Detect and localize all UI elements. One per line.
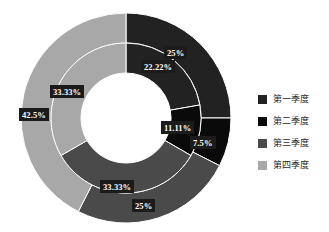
chart-legend: 第一季度 第二季度 第三季度 第四季度 [258, 88, 326, 176]
data-label-inner-q1: 22.22% [141, 60, 175, 73]
legend-swatch-icon-q1 [258, 95, 267, 104]
legend-item-q4[interactable]: 第四季度 [258, 154, 326, 176]
legend-item-q1[interactable]: 第一季度 [258, 88, 326, 110]
data-label-outer-q4: 42.5% [19, 108, 49, 121]
chart-title-remnant [6, 0, 126, 5]
chart-container: 25% 22.22% 11.11% 7.5% 33.33% 25% 33.33%… [0, 0, 329, 232]
data-label-outer-q2: 7.5% [190, 136, 216, 149]
data-label-outer-q3: 25% [132, 199, 155, 212]
legend-item-q2[interactable]: 第二季度 [258, 110, 326, 132]
legend-label-q3: 第三季度 [273, 138, 309, 148]
data-label-inner-q4: 33.33% [50, 85, 84, 98]
legend-swatch-icon-q3 [258, 139, 267, 148]
data-label-outer-q1: 25% [164, 46, 187, 59]
data-label-inner-q3: 33.33% [100, 180, 134, 193]
legend-label-q1: 第一季度 [273, 94, 309, 104]
data-label-inner-q2: 11.11% [161, 121, 194, 134]
legend-swatch-icon-q2 [258, 117, 267, 126]
legend-item-q3[interactable]: 第三季度 [258, 132, 326, 154]
legend-swatch-icon-q4 [258, 161, 267, 170]
legend-label-q2: 第二季度 [273, 116, 309, 126]
legend-label-q4: 第四季度 [273, 160, 309, 170]
